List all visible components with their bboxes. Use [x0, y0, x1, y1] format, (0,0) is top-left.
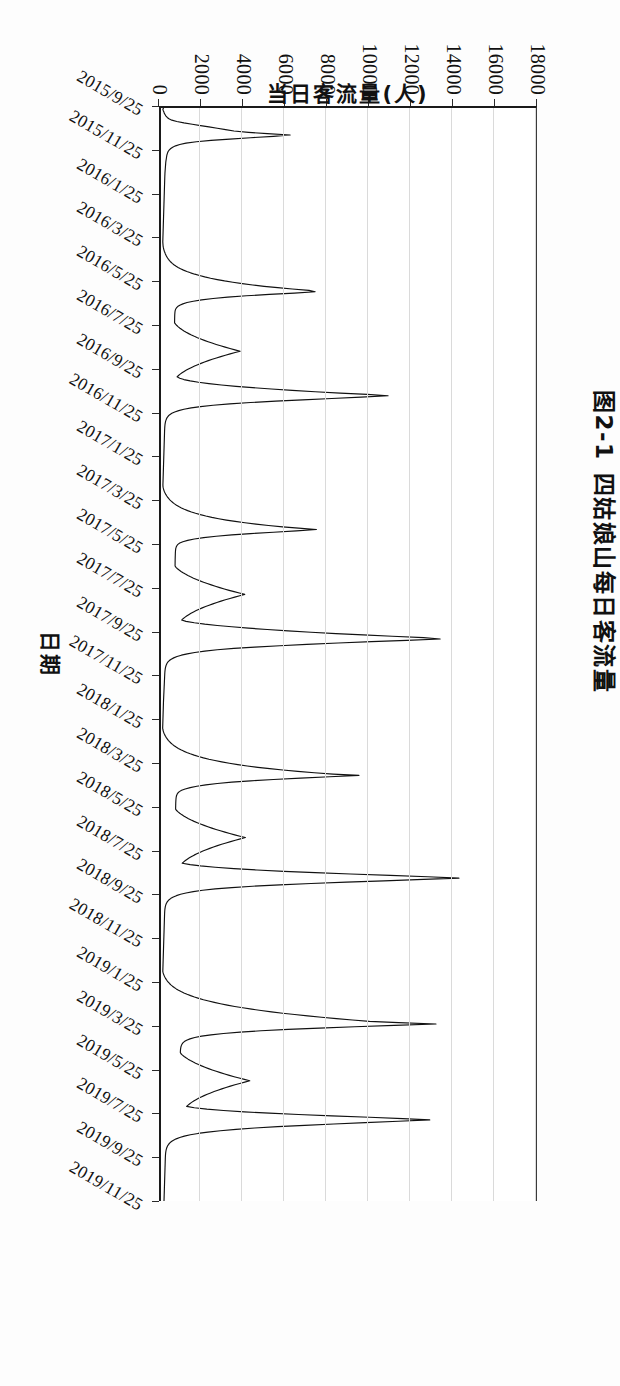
- x-axis-tick-mark: [152, 194, 159, 195]
- y-axis-tick-mark: [200, 99, 201, 106]
- x-axis-tick-mark: [152, 456, 159, 457]
- plot-area-wrapper: 0200040006000800010000120001400016000180…: [159, 106, 537, 1201]
- gridline: [367, 108, 368, 1201]
- y-axis-tick-mark: [452, 99, 453, 106]
- x-axis-tick-mark: [152, 237, 159, 238]
- x-axis-tick-mark: [152, 632, 159, 633]
- x-axis-tick-mark: [152, 719, 159, 720]
- gridline: [199, 108, 200, 1201]
- data-series-line: [161, 108, 536, 1201]
- y-axis-tick-label: 2000: [190, 54, 213, 95]
- x-axis-tick-mark: [152, 369, 159, 370]
- y-axis-tick-mark: [494, 99, 495, 106]
- figure-number: 图2-1: [591, 390, 617, 461]
- y-axis-tick-label: 18000: [526, 44, 549, 96]
- y-axis-tick-mark: [536, 99, 537, 106]
- y-axis-tick-mark: [158, 99, 159, 106]
- x-axis-tick-mark: [152, 1070, 159, 1071]
- x-axis-tick-mark: [152, 1026, 159, 1027]
- x-axis-tick-mark: [152, 982, 159, 983]
- y-axis-tick-label: 14000: [442, 44, 465, 96]
- x-axis-tick-mark: [152, 413, 159, 414]
- gridline: [325, 108, 326, 1201]
- y-axis-tick-label: 16000: [484, 44, 507, 96]
- x-axis-tick-mark: [152, 807, 159, 808]
- x-axis-tick-mark: [152, 675, 159, 676]
- gridline: [535, 108, 536, 1201]
- figure-page: 0200040006000800010000120001400016000180…: [0, 0, 620, 1386]
- gridline: [451, 108, 452, 1201]
- x-axis-tick-mark: [152, 851, 159, 852]
- x-axis-tick-mark: [152, 1201, 159, 1202]
- x-axis-tick-mark: [152, 150, 159, 151]
- x-axis-tick-mark: [152, 106, 159, 107]
- y-axis-title: 当日客流量(人): [267, 77, 428, 107]
- gridline: [409, 108, 410, 1201]
- x-axis-tick-mark: [152, 1157, 159, 1158]
- x-axis-tick-mark: [152, 938, 159, 939]
- y-axis-tick-label: 0: [148, 85, 171, 95]
- x-axis-tick-mark: [152, 894, 159, 895]
- x-axis-tick-mark: [152, 325, 159, 326]
- gridline: [241, 108, 242, 1201]
- y-axis-tick-mark: [242, 99, 243, 106]
- x-axis-tick-mark: [152, 1113, 159, 1114]
- x-axis-tick-mark: [152, 500, 159, 501]
- plot-area: [159, 106, 537, 1201]
- x-axis-tick-mark: [152, 281, 159, 282]
- y-axis-tick-label: 4000: [232, 54, 255, 95]
- figure-title: 四姑娘山每日客流量: [591, 473, 617, 694]
- x-axis-tick-mark: [152, 544, 159, 545]
- x-axis-tick-mark: [152, 588, 159, 589]
- x-axis-tick-mark: [152, 763, 159, 764]
- x-axis-title: 日期: [37, 631, 67, 677]
- gridline: [493, 108, 494, 1201]
- chart-stage: 0200040006000800010000120001400016000180…: [75, 20, 545, 1220]
- gridline: [283, 108, 284, 1201]
- figure-caption: 图2-1四姑娘山每日客流量: [589, 390, 620, 693]
